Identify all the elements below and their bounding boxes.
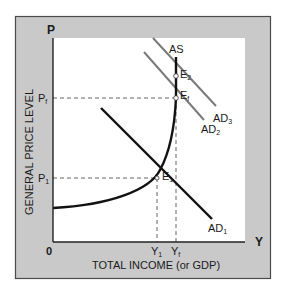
x-axis-title: TOTAL INCOME (or GDP) bbox=[92, 259, 220, 271]
as-ad-diagram: P Y 0 GENERAL PRICE LEVEL TOTAL INCOME (… bbox=[0, 0, 288, 294]
ad2-label-sub: 2 bbox=[216, 129, 220, 136]
ef-point bbox=[174, 96, 179, 101]
ef-label-sub: f bbox=[187, 95, 189, 102]
ad1-label-base: AD bbox=[208, 222, 223, 234]
yf-label-sub: f bbox=[178, 251, 180, 258]
x-axis-symbol: Y bbox=[255, 235, 263, 249]
e1-label-sub: 1 bbox=[169, 176, 173, 183]
e2-label-sub: 2 bbox=[187, 74, 191, 81]
pf-label-sub: f bbox=[45, 98, 47, 105]
ad3-label-base: AD bbox=[213, 112, 228, 124]
e2-label-base: E bbox=[180, 68, 187, 80]
ad3-label-sub: 3 bbox=[228, 118, 232, 125]
origin-label: 0 bbox=[46, 245, 52, 257]
e1-point bbox=[155, 176, 159, 180]
pf-label-base: P bbox=[38, 92, 45, 104]
ad2-label-base: AD bbox=[201, 123, 216, 135]
e1-label-base: E bbox=[162, 170, 169, 182]
e2-point bbox=[174, 74, 179, 79]
y-axis-title: GENERAL PRICE LEVEL bbox=[23, 89, 35, 215]
as-label: AS bbox=[169, 43, 184, 55]
p1-label-base: P bbox=[38, 172, 45, 184]
p1-label-sub: 1 bbox=[45, 178, 49, 185]
y-axis-symbol: P bbox=[47, 23, 55, 37]
ad1-label-sub: 1 bbox=[223, 228, 227, 235]
ef-label-base: E bbox=[180, 89, 187, 101]
y1-label-sub: 1 bbox=[158, 251, 162, 258]
plot-area bbox=[53, 38, 245, 242]
